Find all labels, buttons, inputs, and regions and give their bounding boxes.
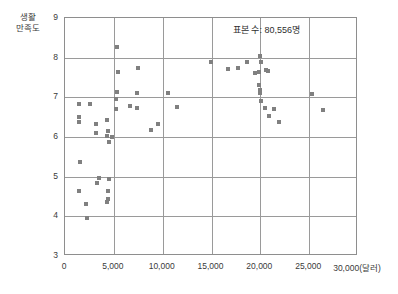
data-point — [77, 115, 81, 119]
data-point — [135, 106, 139, 110]
data-point — [135, 91, 139, 95]
data-point — [106, 129, 110, 133]
data-point — [156, 122, 160, 126]
scatter-chart-figure: 생활 만족도 05,00010,00015,00020,00025,00030,… — [0, 0, 398, 294]
data-point — [263, 106, 267, 110]
data-point — [107, 177, 111, 181]
data-point — [115, 45, 119, 49]
data-point — [106, 189, 110, 193]
data-point — [136, 66, 140, 70]
data-point — [105, 134, 109, 138]
data-point — [115, 90, 119, 94]
gridline-vertical — [163, 18, 164, 254]
x-tick-label: 20,000 — [246, 261, 272, 271]
data-point — [258, 91, 262, 95]
data-point — [209, 60, 213, 64]
data-point — [107, 140, 111, 144]
data-point — [77, 120, 81, 124]
x-tick-label: 25,000 — [295, 261, 321, 271]
plot-area — [64, 17, 357, 255]
data-point — [259, 60, 263, 64]
x-tick-label: 15,000 — [198, 261, 224, 271]
data-point — [236, 66, 240, 70]
data-point — [259, 99, 263, 103]
data-point — [266, 69, 270, 73]
gridline-vertical — [309, 18, 310, 254]
data-point — [88, 102, 92, 106]
data-point — [277, 120, 281, 124]
data-point — [245, 60, 249, 64]
y-tick-label: 7 — [44, 91, 58, 101]
data-point — [175, 105, 179, 109]
x-tick-label: 5,000 — [102, 261, 123, 271]
data-point — [321, 108, 325, 112]
gridline-horizontal — [65, 58, 356, 59]
y-tick-label: 8 — [44, 52, 58, 62]
data-point — [116, 70, 120, 74]
data-point — [77, 189, 81, 193]
gridline-vertical — [212, 18, 213, 254]
data-point — [310, 92, 314, 96]
data-point — [257, 83, 261, 87]
data-point — [272, 107, 276, 111]
gridline-vertical — [114, 18, 115, 254]
data-point — [106, 197, 110, 201]
data-point — [95, 181, 99, 185]
data-point — [94, 122, 98, 126]
data-point — [128, 104, 132, 108]
data-point — [97, 176, 101, 180]
y-tick-label: 9 — [44, 12, 58, 22]
data-point — [77, 102, 81, 106]
gridline-horizontal — [65, 97, 356, 98]
data-point — [94, 131, 98, 135]
data-point — [78, 160, 82, 164]
data-point — [114, 97, 118, 101]
data-point — [226, 67, 230, 71]
gridline-horizontal — [65, 137, 356, 138]
x-tick-label: 10,000 — [149, 261, 175, 271]
gridline-horizontal — [65, 216, 356, 217]
data-point — [85, 216, 89, 220]
data-point — [166, 91, 170, 95]
y-tick-label: 5 — [44, 171, 58, 181]
data-point — [149, 128, 153, 132]
data-point — [110, 135, 114, 139]
y-axis-title: 생활 만족도 — [8, 12, 48, 34]
data-point — [114, 107, 118, 111]
y-tick-label: 4 — [44, 210, 58, 220]
sample-size-annotation: 표본 수: 80,556명 — [233, 23, 300, 36]
data-point — [258, 54, 262, 58]
y-tick-label: 3 — [44, 250, 58, 260]
x-tick-label: 30,000(달러) — [333, 261, 381, 273]
x-tick-label: 0 — [62, 261, 67, 271]
data-point — [257, 70, 261, 74]
y-tick-label: 6 — [44, 131, 58, 141]
data-point — [267, 114, 271, 118]
data-point — [84, 202, 88, 206]
data-point — [105, 118, 109, 122]
